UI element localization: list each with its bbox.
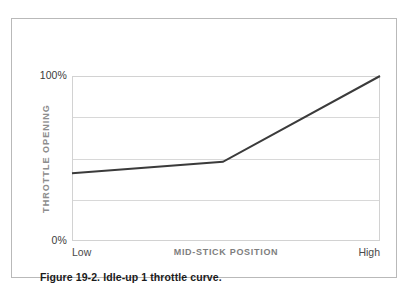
y-axis-title: THROTTLE OPENING (39, 91, 53, 226)
figure-frame: 100% 0% THROTTLE OPENING Low MID-STICK P… (11, 18, 397, 278)
y-tick-label-0: 0% (52, 234, 67, 246)
y-tick-label-100: 100% (40, 69, 67, 81)
figure-root: 100% 0% THROTTLE OPENING Low MID-STICK P… (0, 0, 415, 293)
throttle-curve-svg (72, 76, 380, 241)
x-tick-label-high: High (12, 246, 380, 258)
figure-caption: Figure 19-2. Idle-up 1 throttle curve. (40, 271, 222, 283)
plot-area (72, 76, 380, 241)
throttle-curve-line (72, 76, 380, 173)
